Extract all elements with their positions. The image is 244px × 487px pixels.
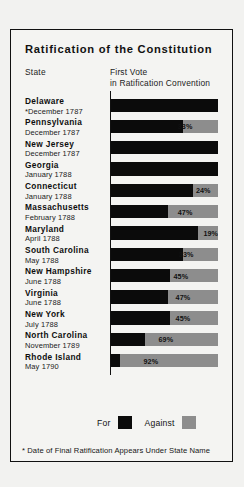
row-state-labels: PennsylvaniaDecember 1787 (25, 118, 109, 137)
bar-track (111, 99, 218, 112)
bar-value-label: 33% (178, 122, 193, 131)
row-state-labels: ConnecticutJanuary 1788 (25, 182, 109, 201)
state-ratification-date: May 1790 (25, 362, 109, 371)
state-name: New York (25, 310, 109, 320)
legend-swatch-against (182, 416, 196, 429)
table-row: North CarolinaNovember 178969% (25, 331, 218, 352)
state-ratification-date: *December 1787 (25, 107, 109, 116)
state-ratification-date: April 1788 (25, 234, 109, 243)
bar-segment-for (111, 311, 170, 324)
bar-segment-for (111, 226, 198, 239)
page-title: Ratification of the Constitution (25, 43, 218, 56)
state-ratification-date: February 1788 (25, 213, 109, 222)
table-row: ConnecticutJanuary 178824% (25, 182, 218, 203)
bar-track: 92% (111, 354, 218, 367)
row-state-labels: Rhode IslandMay 1790 (25, 353, 109, 372)
row-state-labels: Delaware*December 1787 (25, 97, 109, 116)
bar-segment-for (111, 120, 183, 133)
bar-segment-for (111, 290, 168, 303)
bar-segment-for (111, 162, 218, 175)
bar-value-label: 47% (176, 292, 191, 301)
legend-label-for: For (97, 418, 111, 428)
table-row: Rhode IslandMay 179092% (25, 353, 218, 374)
bar-track: 33% (111, 120, 218, 133)
row-state-labels: MarylandApril 1788 (25, 225, 109, 244)
bar-track: 47% (111, 205, 218, 218)
bar-value-label: 69% (158, 335, 173, 344)
bar-segment-for (111, 333, 144, 346)
table-row: MarylandApril 178819% (25, 225, 218, 246)
bar-segment-for (111, 184, 192, 197)
legend-swatch-for (118, 416, 132, 429)
bar-value-label: 19% (203, 228, 218, 237)
state-name: Connecticut (25, 182, 109, 192)
table-row: PennsylvaniaDecember 178733% (25, 118, 218, 139)
bar-value-label: 33% (179, 250, 194, 259)
column-header-state: State (25, 67, 46, 77)
row-state-labels: MassachusettsFebruary 1788 (25, 203, 109, 222)
bar-track: 33% (111, 248, 218, 261)
bar-segment-for (111, 141, 218, 154)
state-ratification-date: May 1788 (25, 256, 109, 265)
bar-track: 19% (111, 226, 218, 239)
row-state-labels: South CarolinaMay 1788 (25, 246, 109, 265)
chart-panel-inner: Ratification of the Constitution State F… (11, 30, 232, 461)
bar-segment-for (111, 354, 120, 367)
state-ratification-date: December 1787 (25, 128, 109, 137)
column-header-first-vote-line2: in Ratification Convention (110, 78, 210, 88)
bar-segment-for (111, 99, 218, 112)
state-name: Rhode Island (25, 353, 109, 363)
state-name: Pennsylvania (25, 118, 109, 128)
table-row: MassachusettsFebruary 178847% (25, 203, 218, 224)
chart-rows: Delaware*December 1787PennsylvaniaDecemb… (25, 97, 218, 374)
legend: For Against (97, 416, 196, 429)
state-ratification-date: January 1788 (25, 170, 109, 179)
state-ratification-date: June 1788 (25, 298, 109, 307)
state-ratification-date: January 1788 (25, 192, 109, 201)
bar-track: 47% (111, 290, 218, 303)
legend-label-against: Against (145, 418, 175, 428)
bar-value-label: 92% (143, 356, 158, 365)
state-name: New Jersey (25, 140, 109, 150)
table-row: South CarolinaMay 178833% (25, 246, 218, 267)
bar-track (111, 141, 218, 154)
column-header-first-vote-line1: First Vote (110, 67, 147, 77)
table-row: New YorkJuly 178845% (25, 310, 218, 331)
bar-track: 45% (111, 269, 218, 282)
bar-value-label: 24% (196, 186, 211, 195)
state-name: Maryland (25, 225, 109, 235)
state-ratification-date: November 1789 (25, 341, 109, 350)
state-name: New Hampshire (25, 267, 109, 277)
state-name: Delaware (25, 97, 109, 107)
bar-segment-for (111, 269, 170, 282)
row-state-labels: New JerseyDecember 1787 (25, 140, 109, 159)
bar-track (111, 162, 218, 175)
footnote: * Date of Final Ratification Appears Und… (22, 446, 210, 455)
bar-track: 24% (111, 184, 218, 197)
state-ratification-date: July 1788 (25, 320, 109, 329)
state-name: North Carolina (25, 331, 109, 341)
state-ratification-date: December 1787 (25, 149, 109, 158)
bar-value-label: 45% (173, 271, 188, 280)
table-row: Delaware*December 1787 (25, 97, 218, 118)
chart-panel: Ratification of the Constitution State F… (10, 29, 233, 462)
bar-track: 45% (111, 311, 218, 324)
state-name: Virginia (25, 289, 109, 299)
table-row: New JerseyDecember 1787 (25, 140, 218, 161)
row-state-labels: GeorgiaJanuary 1788 (25, 161, 109, 180)
state-name: Massachusetts (25, 203, 109, 213)
bar-value-label: 47% (178, 207, 193, 216)
bar-segment-for (111, 205, 168, 218)
row-state-labels: North CarolinaNovember 1789 (25, 331, 109, 350)
table-row: GeorgiaJanuary 1788 (25, 161, 218, 182)
bar-segment-for (111, 248, 183, 261)
bar-value-label: 45% (176, 314, 191, 323)
row-state-labels: New HampshireJune 1788 (25, 267, 109, 286)
column-header-first-vote: First Vote in Ratification Convention (110, 67, 210, 88)
bar-track: 69% (111, 333, 218, 346)
row-state-labels: VirginiaJune 1788 (25, 289, 109, 308)
state-ratification-date: June 1788 (25, 277, 109, 286)
chart-page: Ratification of the Constitution State F… (0, 0, 244, 487)
table-row: New HampshireJune 178845% (25, 267, 218, 288)
state-name: Georgia (25, 161, 109, 171)
